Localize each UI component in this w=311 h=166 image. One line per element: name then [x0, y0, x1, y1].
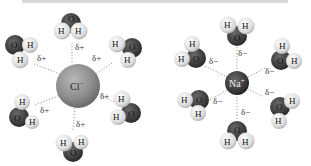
partial-charge-label: δ+: [100, 91, 109, 101]
hydrogen-label: H: [279, 41, 286, 51]
partial-charge-label: δ+: [37, 53, 46, 63]
hydrogen-label: H: [181, 95, 188, 105]
hydrogen-label: H: [195, 109, 202, 119]
hydrogen-label: H: [19, 97, 26, 107]
oxygen-label: O: [128, 109, 135, 119]
partial-charge-label: δ+: [40, 105, 49, 115]
water-molecule: O H H: [177, 90, 209, 121]
partial-charge-label: δ−: [241, 107, 250, 117]
partial-charge-label: δ−: [213, 96, 222, 106]
hydrogen-label: H: [242, 137, 249, 147]
oxygen-label: O: [70, 148, 77, 158]
hydrogen-label: H: [17, 55, 24, 65]
partial-charge-label: δ−: [265, 66, 274, 76]
oxygen-label: O: [68, 14, 75, 24]
water-molecule: O H H: [174, 36, 206, 68]
sodium-hydration-panel: Na+ O H H δ− O H H δ− O H H: [174, 17, 302, 150]
hydrogen-label: H: [58, 26, 65, 36]
water-molecule: O H H: [270, 93, 300, 129]
hydrogen-label: H: [224, 137, 231, 147]
hydrogen-label: H: [189, 39, 196, 49]
hydrogen-label: H: [78, 137, 85, 147]
partial-charge-label: δ−: [209, 56, 218, 66]
hydrogen-label: H: [242, 21, 249, 31]
oxygen-label: O: [129, 42, 136, 52]
water-molecule: O H H: [271, 38, 302, 70]
hydrogen-label: H: [75, 26, 82, 36]
ion-hydration-diagram: Cl− O H H δ+ O H H δ+ O H H: [0, 0, 311, 166]
oxygen-label: O: [193, 54, 200, 64]
chloride-hydration-panel: Cl− O H H δ+ O H H δ+ O H H: [5, 13, 142, 162]
partial-charge-label: δ+: [76, 119, 85, 129]
water-molecule: O H H: [9, 94, 39, 129]
water-molecule: O H H: [54, 13, 88, 40]
water-molecule: O H H: [220, 17, 255, 47]
hydrogen-label: H: [124, 55, 131, 65]
oxygen-label: O: [11, 40, 18, 50]
water-molecule: O H H: [5, 35, 38, 69]
partial-charge-label: δ+: [75, 42, 84, 52]
water-molecule: O H H: [110, 91, 141, 126]
partial-charge-label: δ−: [265, 87, 274, 97]
partial-charge-label: δ−: [238, 48, 247, 58]
hydrogen-label: H: [60, 138, 67, 148]
hydrogen-label: H: [113, 112, 120, 122]
oxygen-label: O: [196, 95, 203, 105]
oxygen-label: O: [276, 102, 283, 112]
water-molecule: O H H: [56, 135, 89, 163]
oxygen-label: O: [234, 33, 241, 43]
hydrogen-label: H: [224, 20, 231, 30]
hydrogen-label: H: [291, 56, 298, 66]
hydrogen-label: H: [27, 40, 34, 50]
hydrogen-label: H: [29, 117, 36, 127]
water-molecule: O H H: [109, 36, 143, 69]
hydrogen-label: H: [178, 54, 185, 64]
oxygen-label: O: [234, 125, 241, 135]
hydrogen-label: H: [112, 39, 119, 49]
oxygen-label: O: [277, 56, 284, 66]
partial-charge-label: δ+: [92, 53, 101, 63]
oxygen-label: O: [14, 113, 21, 123]
hydrogen-label: H: [275, 116, 282, 126]
water-molecule: O H H: [220, 121, 255, 150]
hydrogen-label: H: [289, 96, 296, 106]
hydrogen-label: H: [118, 94, 125, 104]
